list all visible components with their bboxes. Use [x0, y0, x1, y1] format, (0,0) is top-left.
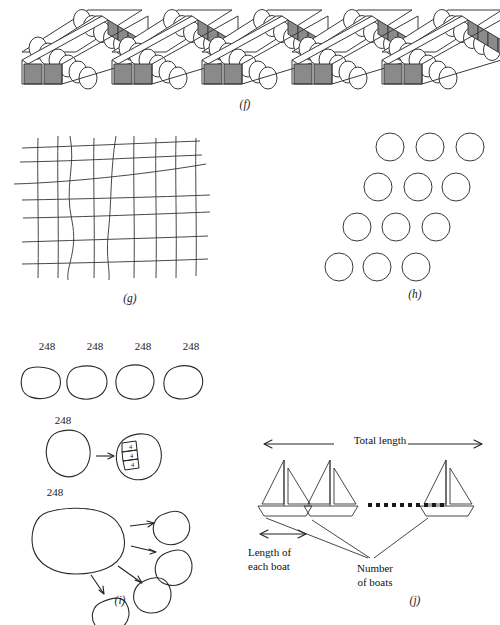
- blob-label-row2: 248: [46, 414, 80, 426]
- boat-1: [258, 460, 312, 516]
- total-length-label: Total length: [340, 434, 420, 448]
- segment-value-3: 4: [131, 461, 135, 468]
- each-boat-label-line1: Length of: [248, 546, 322, 560]
- egg-cartons-svg: [0, 0, 500, 100]
- blob-label-2: 248: [78, 340, 112, 352]
- panel-j-boat-diagram: Total length Length of each boat Number …: [248, 428, 498, 593]
- blob-row2-source: [46, 430, 90, 477]
- number-of-boats-label-line1: Number: [340, 562, 410, 576]
- circle-row-1: [376, 133, 484, 161]
- blob-row1: [21, 365, 202, 399]
- blob-row3-source: [32, 508, 124, 574]
- blob-label-3: 248: [126, 340, 160, 352]
- blob-label-4: 248: [174, 340, 208, 352]
- circle-row-2: [364, 173, 470, 201]
- arrow-row2: [96, 453, 114, 459]
- panel-f-egg-cartons: [0, 0, 500, 100]
- each-boat-label-line2: each boat: [248, 560, 322, 574]
- blob-label-1: 248: [30, 340, 64, 352]
- number-of-boats-label-line2: of boats: [340, 576, 410, 590]
- panel-label-h: (h): [385, 288, 445, 300]
- circle-row-3: [343, 213, 450, 241]
- panel-label-f: (f): [215, 98, 275, 110]
- blob-row2-target: [116, 434, 161, 480]
- blob-row3-arrows: [91, 521, 156, 594]
- panel-label-i: (i): [90, 594, 150, 606]
- boat-last: [420, 460, 474, 516]
- panel-label-j: (j): [385, 594, 445, 606]
- panel-label-g: (g): [100, 292, 160, 304]
- figure-page: (f) (g: [0, 0, 500, 625]
- panel-i-partitioning: 248 248 248 248: [14, 340, 224, 595]
- blob-label-row3: 248: [38, 486, 72, 498]
- circle-array-svg: [320, 130, 500, 290]
- irregular-grid-svg: [20, 126, 245, 286]
- segment-value-1: 4: [129, 443, 133, 450]
- segment-value-2: 4: [130, 452, 134, 459]
- grid-horizontal-lines: [14, 141, 210, 264]
- panel-h-circle-array: [320, 130, 500, 290]
- boat-2: [304, 460, 358, 516]
- grid-vertical-lines: [38, 136, 197, 280]
- circle-row-4: [325, 253, 430, 281]
- egg-carton-5: [382, 10, 500, 90]
- partitioning-svg: 4 4 4: [14, 340, 224, 595]
- ellipsis-dots: [368, 503, 444, 507]
- panel-g-irregular-grid: [20, 126, 245, 286]
